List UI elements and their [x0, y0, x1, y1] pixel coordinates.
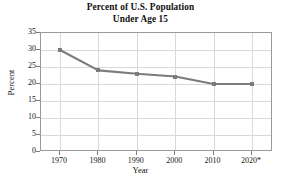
data-point-marker: [58, 48, 62, 52]
x-axis-tick-label: 1970: [39, 156, 79, 165]
y-axis-tick-label: 25: [2, 62, 36, 70]
x-axis-tick-label: 1980: [77, 156, 117, 165]
y-axis-tick-label: 5: [2, 130, 36, 138]
y-axis-tick-label: 35: [2, 28, 36, 36]
y-axis-tick-label: 30: [2, 45, 36, 53]
series-line: [41, 33, 273, 152]
data-point-marker: [135, 72, 139, 76]
data-point-marker: [250, 82, 254, 86]
chart-title-line-1: Percent of U.S. Population: [0, 2, 281, 14]
chart-title-line-2: Under Age 15: [0, 14, 281, 26]
chart-figure: Percent of U.S. Population Under Age 15 …: [0, 0, 281, 181]
plot-area: [40, 32, 272, 151]
x-axis-tick-label: 2010: [193, 156, 233, 165]
data-point-marker: [173, 75, 177, 79]
y-axis-tick-label: 15: [2, 96, 36, 104]
x-axis-title: Year: [0, 166, 281, 175]
y-axis-tick-label: 20: [2, 79, 36, 87]
y-axis-tick-label: 0: [2, 147, 36, 155]
data-point-marker: [96, 68, 100, 72]
y-axis-tick-labels: 35302520151050: [0, 0, 36, 181]
chart-title: Percent of U.S. Population Under Age 15: [0, 2, 281, 25]
x-axis-tick-label: 1990: [116, 156, 156, 165]
x-axis-tick-label: 2000: [154, 156, 194, 165]
y-axis-tick-label: 10: [2, 113, 36, 121]
data-point-marker: [212, 82, 216, 86]
x-axis-tick-label: 2020*: [231, 156, 271, 165]
y-axis-tick-mark: [36, 151, 40, 152]
